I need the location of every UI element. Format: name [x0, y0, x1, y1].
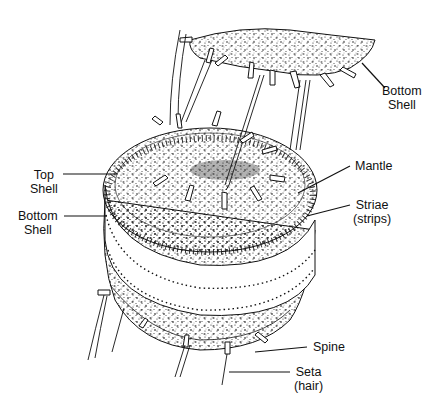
label-seta: Seta (hair) — [294, 365, 323, 393]
label-top-shell: Top Shell — [30, 168, 58, 196]
label-bottom-shell-left: Bottom Shell — [18, 209, 58, 237]
label-text: Mantle — [355, 159, 393, 173]
label-text: Bottom — [382, 84, 422, 98]
label-spine: Spine — [313, 340, 345, 354]
label-text: Striae — [353, 198, 391, 212]
label-text: Spine — [313, 340, 345, 354]
label-text: Top — [30, 168, 58, 182]
label-bottom-shell-top: Bottom Shell — [382, 84, 422, 112]
diatom-diagram: Bottom Shell Mantle Striae (strips) Top … — [0, 0, 440, 417]
label-text: (strips) — [353, 212, 391, 226]
label-text: Shell — [18, 223, 58, 237]
label-striae: Striae (strips) — [353, 198, 391, 226]
label-mantle: Mantle — [355, 159, 393, 173]
diatom-body — [88, 111, 317, 385]
label-text: Shell — [30, 182, 58, 196]
label-text: (hair) — [294, 379, 323, 393]
label-text: Seta — [294, 365, 323, 379]
label-text: Bottom — [18, 209, 58, 223]
label-text: Shell — [382, 98, 422, 112]
